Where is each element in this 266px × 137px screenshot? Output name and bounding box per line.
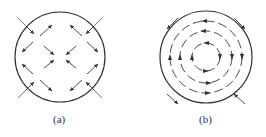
panel-a-label: (a) <box>53 113 65 125</box>
panel-b-diagram <box>160 11 252 104</box>
vortex-arrowheads-b <box>168 19 244 95</box>
boundary-circle-b <box>160 11 252 103</box>
diagram-canvas <box>0 0 266 137</box>
boundary-circle-a <box>15 12 105 102</box>
panel-a-diagram <box>15 12 105 102</box>
panel-b-label: (b) <box>199 113 212 125</box>
field-arrows-a <box>22 25 98 91</box>
